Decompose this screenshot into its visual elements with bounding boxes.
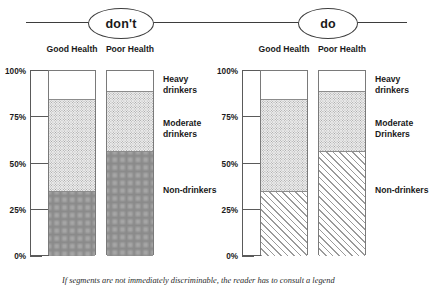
segment-label-moderate-line2-dont: drinkers [163, 129, 201, 140]
segment-heavy-good-health-dont [49, 71, 95, 99]
dont-badge-label: don't [105, 17, 136, 31]
segment-label-heavy-line2-dont: drinkers [163, 85, 197, 96]
segment-moderate-good-health-do [261, 99, 307, 192]
segment-label-moderate-line1-dont: Moderate [163, 118, 201, 129]
segment-nondrinkers-poor-health-do [319, 151, 365, 256]
segment-heavy-good-health-do [261, 71, 307, 99]
do-badge: do [298, 8, 358, 39]
dont-badge: don't [88, 8, 154, 39]
y-tick-label-0-dont: 0% [14, 252, 26, 261]
y-axis-do: 100% 75% 50% 25% 0% [242, 70, 254, 257]
y-tick-label-50-dont: 50% [10, 159, 26, 168]
column-header-good-health-do: Good Health [254, 44, 314, 54]
column-header-poor-health-dont: Poor Health [100, 44, 160, 54]
segment-label-moderate-line1-do: Moderate [375, 118, 413, 129]
segment-moderate-good-health-dont [49, 99, 95, 192]
segment-nondrinkers-good-health-do [261, 191, 307, 256]
bar-poor-health-do [318, 70, 366, 255]
segment-moderate-poor-health-do [319, 91, 365, 150]
column-header-good-health-dont: Good Health [42, 44, 102, 54]
panel-do: Good Health Poor Health 100% 75% 50% 25%… [212, 44, 433, 274]
segment-label-nondrinkers-do: Non-drinkers [375, 185, 428, 196]
y-tick-label-75-dont: 75% [10, 113, 26, 122]
y-tick-label-25-dont: 25% [10, 205, 26, 214]
figure-caption: If segments are not immediately discrimi… [62, 276, 422, 285]
segment-label-heavy-line2-do: drinkers [375, 85, 409, 96]
segment-nondrinkers-good-health-dont [49, 191, 95, 256]
y-tick-label-100-dont: 100% [5, 67, 26, 76]
y-tick-label-50-do: 50% [222, 159, 238, 168]
bar-poor-health-dont [106, 70, 154, 255]
segment-label-nondrinkers-dont: Non-drinkers [163, 185, 216, 196]
segment-moderate-poor-health-dont [107, 91, 153, 150]
bar-good-health-do [260, 70, 308, 255]
do-badge-label: do [320, 17, 336, 31]
panel-dont: Good Health Poor Health 100% 75% 50% 25%… [0, 44, 216, 274]
segment-label-heavy-do: Heavy drinkers [375, 74, 409, 95]
segment-heavy-poor-health-do [319, 71, 365, 91]
segment-label-moderate-dont: Moderate drinkers [163, 118, 201, 139]
segment-label-heavy-line1-do: Heavy [375, 74, 409, 85]
bar-good-health-dont [48, 70, 96, 255]
column-header-poor-health-do: Poor Health [312, 44, 372, 54]
y-axis-dont: 100% 75% 50% 25% 0% [30, 70, 42, 257]
segment-label-moderate-do: Moderate Drinkers [375, 118, 413, 139]
y-tick-label-0-do: 0% [226, 252, 238, 261]
segment-label-heavy-dont: Heavy drinkers [163, 74, 197, 95]
segment-nondrinkers-poor-health-dont [107, 151, 153, 256]
figure-canvas: don't do Good Health Poor Health 100% 75… [0, 0, 433, 285]
segment-label-heavy-line1-dont: Heavy [163, 74, 197, 85]
y-tick-label-75-do: 75% [222, 113, 238, 122]
y-tick-label-100-do: 100% [217, 67, 238, 76]
segment-label-moderate-line2-do: Drinkers [375, 129, 413, 140]
segment-heavy-poor-health-dont [107, 71, 153, 91]
y-tick-label-25-do: 25% [222, 205, 238, 214]
